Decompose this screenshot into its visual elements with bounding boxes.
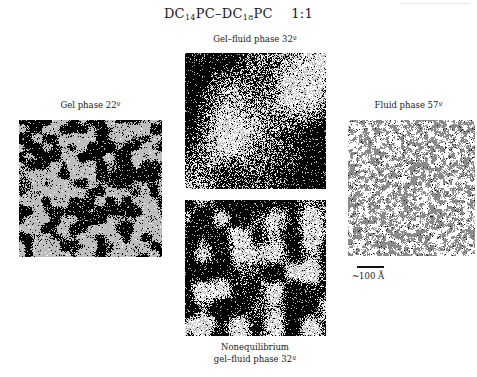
mixing-ratio: 1:1 [291,6,313,21]
figure-title: DC14PC–DC18PC 1:1 [0,6,477,22]
scale-bar-line [357,266,384,268]
scan-artifact-line [400,3,470,4]
panel-label-nonequilibrium: Nonequilibrium gel–fluid phase 32º [170,341,340,365]
lattice-panel-fluid [348,120,475,256]
lattice-panel-gel-fluid [185,53,326,189]
lipid-b: DC18PC [222,6,273,21]
panel-label-fluid: Fluid phase 57º [340,100,477,110]
scale-bar-label: ~100 Å [352,271,384,281]
panel-label-gel-fluid: Gel–fluid phase 32º [170,34,340,44]
lipid-a: DC14PC [164,6,215,21]
panel-label-gel: Gel phase 22º [19,100,162,110]
lattice-panel-nonequilibrium [185,200,326,336]
lattice-panel-gel [19,120,162,257]
